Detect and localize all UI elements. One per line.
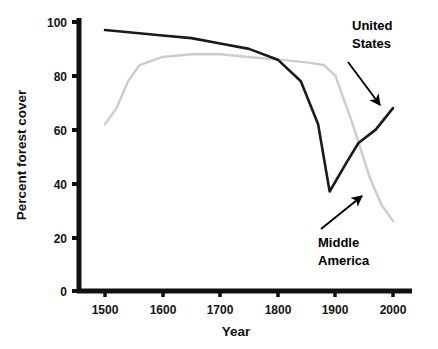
label-united-states-line1: United	[352, 18, 393, 33]
forest-cover-line-chart: 100 80 60 40 20 0 1500 1600 1700 1800 19…	[0, 0, 438, 349]
label-middle-america-line1: Middle	[318, 235, 359, 250]
x-axis-title: Year	[222, 324, 251, 339]
x-tick-label-1600: 1600	[150, 303, 177, 317]
x-tick-label-1800: 1800	[265, 303, 292, 317]
y-axis-title: Percent forest cover	[14, 89, 29, 220]
label-united-states-line2: States	[352, 36, 391, 51]
x-tick-label-1700: 1700	[207, 303, 234, 317]
x-tick-label-1900: 1900	[322, 303, 349, 317]
y-tick-label-80: 80	[54, 70, 68, 84]
x-tick-label-2000: 2000	[380, 303, 407, 317]
y-tick-label-100: 100	[47, 16, 67, 30]
x-tick-label-1500: 1500	[92, 303, 119, 317]
label-middle-america-line2: America	[318, 253, 370, 268]
y-tick-label-20: 20	[54, 232, 68, 246]
y-tick-label-60: 60	[54, 124, 68, 138]
y-tick-label-40: 40	[54, 178, 68, 192]
y-tick-label-0: 0	[60, 285, 67, 299]
